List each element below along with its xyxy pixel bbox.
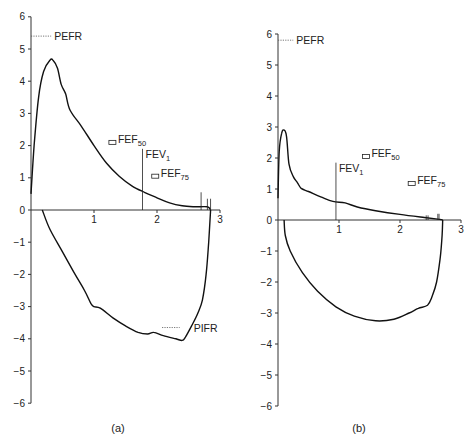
- fev1-label: FEV1: [146, 148, 171, 163]
- y-tick-label: 6: [19, 11, 25, 22]
- y-tick-label: −6: [14, 398, 26, 409]
- y-tick-label: −6: [261, 401, 273, 412]
- fef75-subscript: 75: [181, 173, 189, 182]
- inspiratory-curve: [42, 210, 210, 340]
- fef75-label: FEF75: [417, 174, 445, 189]
- y-tick-label: 5: [266, 60, 272, 71]
- pefr-label: PEFR: [296, 34, 324, 46]
- y-tick-label: 2: [19, 140, 25, 151]
- caption-b: (b): [352, 422, 365, 434]
- y-tick-label: −5: [14, 366, 26, 377]
- y-tick-label: −1: [261, 246, 273, 257]
- fef50-subscript: 50: [391, 153, 399, 162]
- fef75-subscript: 75: [437, 180, 445, 189]
- fef50-marker-box: [362, 154, 369, 158]
- y-tick-label: 6: [266, 29, 272, 40]
- y-tick-label: 5: [19, 44, 25, 55]
- pefr-label: PEFR: [54, 30, 82, 42]
- y-tick-label: −4: [261, 339, 273, 350]
- fef50-marker-box: [109, 140, 116, 144]
- y-tick-label: −2: [14, 269, 26, 280]
- y-tick-label: 0: [266, 215, 272, 226]
- y-tick-label: 4: [266, 91, 272, 102]
- fev1-subscript: 1: [166, 154, 170, 163]
- y-tick-label: 0: [19, 205, 25, 216]
- fef75-marker-box: [152, 174, 159, 178]
- y-tick-label: 1: [19, 172, 25, 183]
- fef50-label: FEF50: [118, 133, 146, 148]
- y-tick-label: −5: [261, 370, 273, 381]
- y-tick-label: 3: [266, 122, 272, 133]
- y-tick-label: 2: [266, 153, 272, 164]
- y-tick-label: −4: [14, 333, 26, 344]
- inspiratory-curve: [284, 220, 443, 321]
- fef50-label: FEF50: [371, 147, 399, 162]
- y-tick-label: 1: [266, 184, 272, 195]
- x-tick-label: 2: [397, 224, 403, 235]
- caption-a: (a): [111, 422, 124, 434]
- y-tick-label: −2: [261, 277, 273, 288]
- x-tick-label: 2: [154, 214, 160, 225]
- fef75-marker-box: [408, 181, 415, 185]
- y-tick-label: −3: [261, 308, 273, 319]
- y-tick-label: −3: [14, 301, 26, 312]
- pifr-label: PIFR: [194, 322, 218, 334]
- chart-a: 6543210−1−2−3−4−5−6123PEFRFEF50FEV1FEF75…: [14, 11, 224, 434]
- y-tick-label: 3: [19, 108, 25, 119]
- x-tick-label: 1: [91, 214, 97, 225]
- fev1-label: FEV1: [339, 162, 364, 177]
- x-tick-label: 3: [458, 224, 464, 235]
- chart-b: 6543210−1−2−3−4−5−6123PEFRFEF50FEV1FEF75…: [261, 29, 465, 435]
- fev1-subscript: 1: [359, 168, 363, 177]
- y-tick-label: 4: [19, 76, 25, 87]
- y-tick-label: −1: [14, 237, 26, 248]
- flow-volume-figure: 6543210−1−2−3−4−5−6123PEFRFEF50FEV1FEF75…: [0, 0, 476, 448]
- x-tick-label: 3: [217, 214, 223, 225]
- x-tick-label: 1: [336, 224, 342, 235]
- fef75-label: FEF75: [161, 167, 189, 182]
